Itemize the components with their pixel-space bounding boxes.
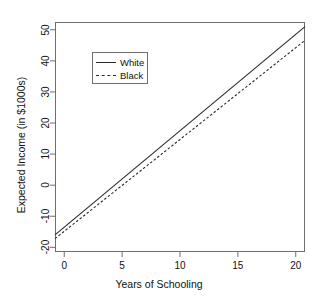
y-tick-label-30: 30 [41, 79, 51, 105]
x-axis-title: Years of Schooling [0, 278, 318, 290]
legend-entry-white: White [96, 57, 144, 69]
chart-legend: White Black [92, 52, 148, 84]
y-tick-label--10: -10 [41, 203, 51, 229]
dashed-line-key-icon [96, 72, 116, 80]
x-tick-label-15: 15 [225, 261, 251, 271]
chart-figure: 05101520 -20-1001020304050 Years of Scho… [0, 0, 318, 298]
legend-entry-black: Black [96, 70, 143, 82]
y-tick-label-0: 0 [41, 172, 51, 198]
y-tick-label-10: 10 [41, 141, 51, 167]
x-tick-label-20: 20 [283, 261, 309, 271]
y-axis-title: Expected Income (in $1000s) [15, 20, 27, 270]
legend-label-black: Black [120, 71, 143, 81]
legend-label-white: White [120, 58, 144, 68]
y-tick-label--20: -20 [41, 234, 51, 260]
x-tick-label-5: 5 [109, 261, 135, 271]
y-tick-label-50: 50 [41, 17, 51, 43]
y-tick-label-40: 40 [41, 48, 51, 74]
x-tick-label-0: 0 [51, 261, 77, 271]
solid-line-key-icon [96, 59, 116, 67]
x-tick-label-10: 10 [167, 261, 193, 271]
y-tick-label-20: 20 [41, 110, 51, 136]
x-axis-tick-marks [64, 252, 295, 257]
